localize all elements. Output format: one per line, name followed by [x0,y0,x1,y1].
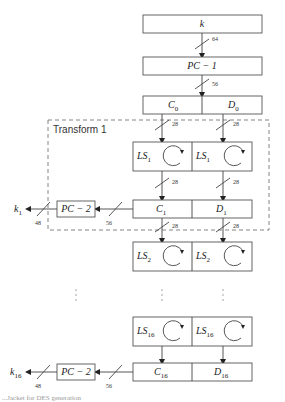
c16-d16-register: C16 D16 [133,363,252,381]
k16-output-label: k16 [10,366,22,380]
bit-width-56: 56 [212,81,218,87]
bit-width-28: 28 [233,179,239,185]
bit-width-56: 56 [106,220,112,226]
bit-width-48: 48 [35,220,41,226]
bit-width-64: 64 [212,36,218,42]
pc2-box-round1: PC − 2 [57,201,95,217]
key-input-box: k [143,15,262,33]
pc1-label: PC − 1 [186,60,217,71]
bit-width-28: 28 [233,223,239,229]
pc2-box-round16: PC − 2 [57,364,95,380]
k1-output-label: k1 [14,203,22,217]
ls16-block: LS16 LS16 [133,317,252,346]
bit-width-48: 48 [35,383,41,389]
bit-width-28: 28 [233,121,239,127]
bit-width-28: 28 [172,121,178,127]
bit-width-56: 56 [106,383,112,389]
pc2-label: PC − 2 [60,203,91,214]
transform-1-label: Transform 1 [53,124,107,135]
ls1-block: LS1 LS1 [133,142,252,171]
des-key-schedule-diagram: k 64 PC − 1 56 C0 D0 Transform 1 28 28 L… [0,0,285,402]
pc1-box: PC − 1 [143,57,262,75]
key-label: k [200,18,205,29]
c1-d1-register: C1 D1 [133,200,252,218]
c0-d0-register: C0 D0 [143,96,262,114]
ellipsis-dots [75,289,224,301]
bit-width-28: 28 [172,223,178,229]
pc2-label: PC − 2 [60,366,91,377]
figure-caption: ...Jacket for DES generation [2,394,81,402]
ls2-block: LS2 LS2 [133,242,252,271]
bit-width-28: 28 [172,179,178,185]
